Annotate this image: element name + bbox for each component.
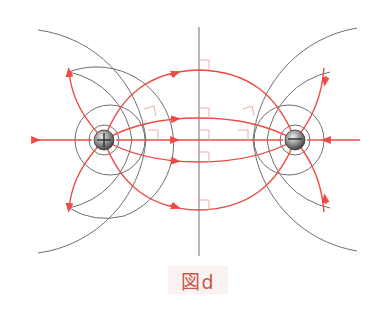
figure-caption-text: 図d: [181, 267, 214, 294]
figure-caption: 図d: [168, 266, 228, 294]
field-lines: [36, 68, 360, 212]
negative-charge: [285, 130, 305, 150]
field-line-diagram: 図d: [0, 0, 386, 317]
positive-charge: [94, 130, 114, 150]
